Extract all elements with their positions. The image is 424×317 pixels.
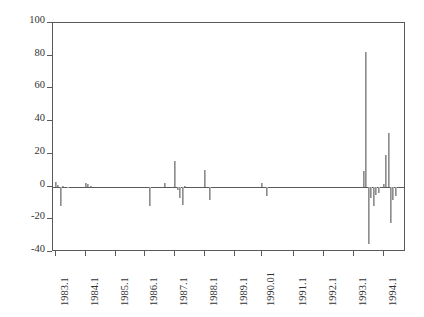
bar: [67, 187, 69, 188]
x-axis-tick-label: 1989.1: [238, 277, 249, 306]
y-axis-tick-label: 0: [40, 178, 45, 189]
chart-container: -40-20020406080100 1983.11984.11985.1198…: [0, 0, 424, 317]
x-axis-tick-label: 1987.1: [178, 277, 189, 306]
y-axis-tick-label: -20: [31, 210, 45, 221]
y-axis-tick-label: 60: [35, 79, 46, 90]
x-axis-tick-label: 1984.1: [89, 277, 100, 306]
bar: [395, 187, 397, 197]
x-axis-tick-mark: [383, 251, 384, 256]
bar: [182, 187, 184, 206]
x-axis-tick-mark: [234, 251, 235, 256]
plot-inner: [53, 23, 404, 250]
x-axis-tick-mark: [115, 251, 116, 256]
x-axis-tick-label: 1993.1: [357, 277, 368, 306]
x-axis-tick-label: 1988.1: [208, 277, 219, 306]
bar: [164, 183, 166, 186]
bar: [266, 187, 268, 197]
bar: [365, 52, 367, 186]
x-axis-tick-label: 1990.01: [265, 272, 276, 306]
plot-area: [52, 22, 405, 251]
x-axis-tick-mark: [323, 251, 324, 256]
x-axis: 1983.11984.11985.11986.11987.11988.11989…: [52, 251, 405, 317]
bar: [209, 187, 211, 200]
bar: [174, 161, 176, 186]
bar: [90, 186, 92, 187]
x-axis-tick-mark: [353, 251, 354, 256]
y-axis-tick-label: -40: [31, 243, 45, 254]
x-axis-tick-label: 1992.1: [327, 277, 338, 306]
y-axis-tick-label: 100: [29, 14, 45, 25]
bar: [378, 187, 380, 194]
x-axis-tick-label: 1991.1: [297, 277, 308, 306]
x-axis-tick-mark: [261, 251, 262, 256]
x-axis-tick-label: 1985.1: [119, 277, 130, 306]
bar: [87, 184, 89, 186]
x-axis-tick-label: 1994.1: [387, 277, 398, 306]
x-axis-tick-mark: [174, 251, 175, 256]
y-axis: -40-20020406080100: [0, 22, 52, 251]
x-axis-tick-label: 1983.1: [59, 277, 70, 306]
bar: [60, 187, 62, 207]
bar: [363, 171, 365, 187]
bar: [149, 187, 151, 207]
x-axis-tick-mark: [85, 251, 86, 256]
y-axis-tick-label: 40: [35, 112, 46, 123]
bar: [184, 186, 186, 187]
x-axis-tick-mark: [293, 251, 294, 256]
x-axis-tick-mark: [144, 251, 145, 256]
x-axis-tick-label: 1986.1: [148, 277, 159, 306]
bar: [385, 155, 387, 187]
zero-baseline: [53, 187, 404, 188]
x-axis-tick-mark: [204, 251, 205, 256]
bar: [388, 133, 390, 187]
x-axis-tick-mark: [55, 251, 56, 256]
y-axis-tick-label: 20: [35, 145, 46, 156]
bar: [62, 186, 64, 187]
bar: [204, 170, 206, 186]
y-axis-tick-label: 80: [35, 47, 46, 58]
bar: [261, 183, 263, 186]
